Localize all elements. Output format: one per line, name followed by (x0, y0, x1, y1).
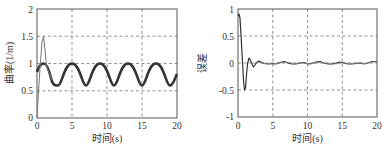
x-tick-10: 10 (303, 121, 313, 131)
y-axis-label: 曲率(1/m) (3, 42, 16, 84)
error-line (238, 14, 377, 90)
curvature-chart: 0 0.5 1 1.5 2 0 5 10 15 20 时间(s) 曲率(1/m) (3, 5, 182, 146)
x-tick-15: 15 (137, 121, 147, 131)
y-tick-neg1: -1 (226, 112, 234, 122)
y-tick-1.5: 1.5 (21, 32, 33, 42)
x-tick-labels: 0 5 10 15 20 (236, 121, 382, 131)
y-tick-2: 2 (28, 5, 33, 15)
y-tick-0: 0 (229, 59, 234, 69)
x-tick-10: 10 (102, 121, 112, 131)
x-tick-labels: 0 5 10 15 20 (35, 121, 182, 131)
figure: 0 0.5 1 1.5 2 0 5 10 15 20 时间(s) 曲率(1/m) (0, 0, 386, 147)
y-tick-1: 1 (229, 5, 234, 15)
x-tick-20: 20 (372, 121, 382, 131)
x-tick-5: 5 (270, 121, 275, 131)
x-tick-20: 20 (172, 121, 182, 131)
y-tick-labels: 0 0.5 1 1.5 2 (21, 5, 33, 124)
y-tick-0: 0 (28, 113, 33, 123)
x-tick-0: 0 (236, 121, 241, 131)
x-axis-label: 时间(s) (92, 132, 123, 145)
error-chart: -1 -0.5 0 0.5 1 0 5 10 15 20 时间(s) 误差 (196, 5, 382, 146)
y-tick-0.5: 0.5 (21, 86, 33, 96)
y-tick-0.5: 0.5 (222, 32, 234, 42)
y-tick-labels: -1 -0.5 0 0.5 1 (219, 5, 234, 123)
y-axis-label: 误差 (196, 53, 208, 73)
x-tick-0: 0 (35, 121, 40, 131)
y-tick-1: 1 (28, 59, 33, 69)
y-tick-neg0.5: -0.5 (219, 86, 234, 96)
x-tick-15: 15 (338, 121, 348, 131)
x-axis-label: 时间(s) (292, 132, 323, 145)
x-tick-5: 5 (70, 121, 75, 131)
